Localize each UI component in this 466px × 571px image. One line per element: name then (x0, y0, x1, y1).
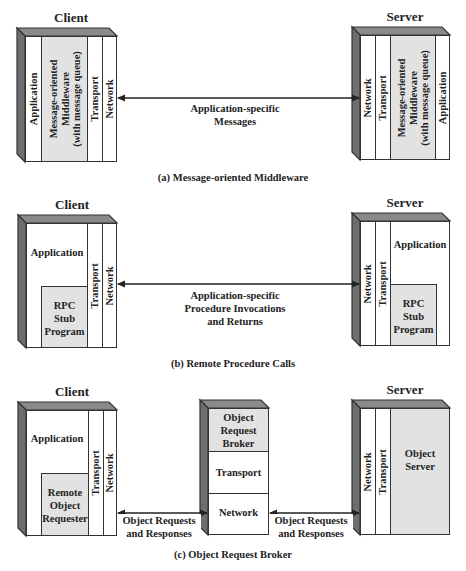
server-title-b: Server (355, 195, 455, 211)
client-b-rpc-stub: RPC Stub Program (41, 286, 87, 347)
arrow-c-left-label: Object Requests and Responses (117, 514, 201, 540)
client-c-application: Application Remote Object Requester (27, 411, 88, 535)
client-title-a: Client (21, 10, 121, 26)
client-b-network: Network (102, 224, 116, 347)
server-c-transport: Transport (375, 409, 390, 534)
client-c-network: Network (103, 411, 116, 535)
client-box-c: Application Remote Object Requester Tran… (26, 410, 117, 536)
client-a-middleware: Message-oriented Middleware (with messag… (41, 37, 87, 161)
server-b-network: Network (361, 222, 375, 345)
broker-transport: Transport (209, 452, 268, 494)
server-c-network: Network (361, 409, 375, 534)
server-b-rpc-stub: RPC Stub Program (391, 284, 437, 345)
server-c-object-server: Object Server (390, 409, 449, 534)
caption-b: (b) Remote Procedure Calls (133, 358, 333, 369)
client-a-application: Application (26, 37, 41, 161)
arrow-c-right-label: Object Requests and Responses (269, 514, 353, 540)
server-box-b: Network Transport Application RPC Stub P… (360, 221, 450, 346)
caption-c: (c) Object Request Broker (133, 549, 333, 560)
client-a-transport: Transport (87, 37, 102, 161)
server-title-a: Server (355, 9, 455, 25)
client-c-remote-object-requester: Remote Object Requester (41, 473, 88, 535)
server-a-network: Network (361, 36, 375, 159)
arrow-b-label: Application-specific Procedure Invocatio… (175, 289, 295, 328)
broker-object-request-broker: Object Request Broker (209, 409, 268, 452)
broker-network: Network (209, 494, 268, 534)
client-box-b: Application RPC Stub Program Transport N… (26, 223, 117, 348)
server-a-transport: Transport (375, 36, 390, 159)
server-a-middleware: Message-oriented Middleware (with messag… (390, 36, 435, 159)
client-b-application: Application RPC Stub Program (27, 224, 87, 347)
server-b-application: Application RPC Stub Program (390, 222, 449, 345)
client-title-c: Client (22, 384, 122, 400)
broker-box: Object Request Broker Transport Network (208, 408, 269, 535)
caption-a: (a) Message-oriented Middleware (133, 172, 333, 183)
client-b-transport: Transport (87, 224, 102, 347)
client-box-a: Application Message-oriented Middleware … (25, 36, 117, 162)
server-b-transport: Transport (375, 222, 390, 345)
server-a-application: Application (435, 36, 449, 159)
server-title-c: Server (355, 382, 455, 398)
client-a-network: Network (102, 37, 117, 161)
server-box-a: Network Transport Message-oriented Middl… (360, 35, 450, 160)
client-title-b: Client (22, 197, 122, 213)
arrow-a-label: Application-specific Messages (185, 102, 285, 128)
client-c-transport: Transport (88, 411, 103, 535)
server-box-c: Network Transport Object Server (360, 408, 450, 535)
